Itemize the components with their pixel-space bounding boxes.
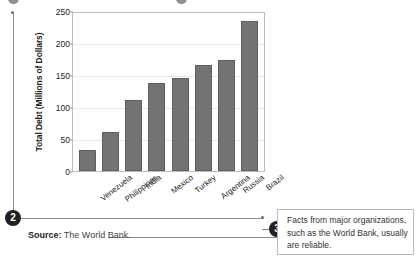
bar xyxy=(218,60,235,171)
y-axis-ticks: 250 200 150 100 50 0 xyxy=(20,12,70,172)
leader-line-horizontal xyxy=(20,218,263,219)
annotation-marker-2: 2 xyxy=(5,210,21,226)
bar xyxy=(195,65,212,171)
source-label: Source xyxy=(28,230,59,240)
bar xyxy=(79,150,96,171)
bar xyxy=(102,132,119,171)
y-tick-label: 50 xyxy=(24,135,70,145)
source-text: The World Bank. xyxy=(64,230,131,240)
x-axis-label: Brazil xyxy=(264,173,285,192)
bar xyxy=(172,78,189,171)
callout-box: Facts from major organizations, such as … xyxy=(277,209,414,255)
plot-area xyxy=(72,12,265,172)
leader-line-vertical xyxy=(13,13,14,218)
y-tick-label: 150 xyxy=(24,71,70,81)
bar xyxy=(125,100,142,171)
x-axis-labels: VenezuelaPhilippinesIndiaMexicoTurkeyArg… xyxy=(72,173,265,213)
source-line: Source: The World Bank. xyxy=(28,230,131,240)
bar xyxy=(241,21,258,171)
y-tick-label: 200 xyxy=(24,39,70,49)
page-root: Total Debt (Millions of Dollars) 250 200… xyxy=(0,0,416,257)
x-axis-label: Turkey xyxy=(193,173,218,195)
bar-series xyxy=(73,13,264,171)
y-tick-label: 250 xyxy=(24,7,70,17)
leader-endpoint-dot-right xyxy=(261,216,264,219)
leader-line-source xyxy=(108,237,280,238)
bar xyxy=(148,83,165,171)
y-tick-label: 100 xyxy=(24,103,70,113)
y-tick-label: 0 xyxy=(24,167,70,177)
x-axis-label: Mexico xyxy=(169,173,195,196)
bar-chart: Total Debt (Millions of Dollars) 250 200… xyxy=(0,0,280,210)
source-separator: : xyxy=(59,230,62,240)
